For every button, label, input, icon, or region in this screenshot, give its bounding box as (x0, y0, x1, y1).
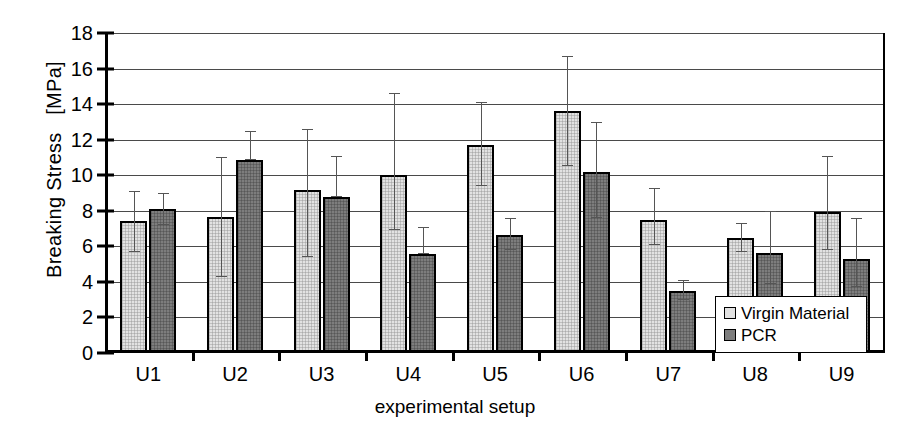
x-tick-label-u5: U5 (482, 363, 508, 386)
x-tick-label-u9: U9 (829, 363, 855, 386)
y-tick-label: 14 (45, 94, 93, 114)
chart-root: Breaking Stress [MPa] 024681012141618 U1… (0, 0, 910, 432)
legend-label-pcr: PCR (741, 327, 777, 344)
y-tick-label: 6 (45, 236, 93, 256)
x-axis-title: experimental setup (0, 396, 910, 418)
y-tick-label: 18 (45, 23, 93, 43)
legend-swatch-icon-pcr (724, 329, 736, 341)
legend: Virgin Material PCR (715, 296, 867, 353)
x-tick-label-u4: U4 (396, 363, 422, 386)
legend-swatch-icon-virgin-material (724, 307, 736, 319)
y-tick-label: 16 (45, 59, 93, 79)
legend-label-virgin-material: Virgin Material (741, 305, 849, 322)
y-tick-label: 10 (45, 165, 93, 185)
y-tick-label: 4 (45, 272, 93, 292)
x-tick-label-u8: U8 (742, 363, 768, 386)
x-tick-label-u2: U2 (222, 363, 248, 386)
x-tick-label-u6: U6 (569, 363, 595, 386)
x-tick-label-u3: U3 (309, 363, 335, 386)
y-tick-label: 8 (45, 201, 93, 221)
y-tick-label: 0 (45, 343, 93, 363)
y-tick-label: 12 (45, 130, 93, 150)
legend-item-pcr: PCR (724, 324, 860, 346)
legend-item-virgin-material: Virgin Material (724, 302, 860, 324)
y-tick-label: 2 (45, 307, 93, 327)
x-tick-label-u7: U7 (656, 363, 682, 386)
x-tick-label-u1: U1 (136, 363, 162, 386)
